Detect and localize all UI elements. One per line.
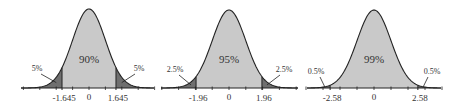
central-area <box>330 10 418 88</box>
upper-critical-value-label: 2.58 <box>412 93 428 103</box>
right-tail-label: 5% <box>134 64 145 73</box>
left-tail-pointer <box>320 77 325 87</box>
right-tail-pointer <box>423 77 428 87</box>
panel-95-percent: 95% 2.5% 2.5% -1.96 0 1.96 <box>161 10 298 103</box>
zero-label: 0 <box>87 92 92 102</box>
panel-99-percent: 99% 0.5% 0.5% -2.58 0 2.58 <box>306 10 442 103</box>
left-tail-label: 2.5% <box>167 65 184 74</box>
left-tail-label: 5% <box>32 64 43 73</box>
right-tail-pointer <box>122 74 135 83</box>
normal-distribution-charts: 90% 5% 5% -1.645 0 1.645 95% 2.5% 2.5% -… <box>0 0 463 109</box>
right-tail-label: 2.5% <box>276 65 293 74</box>
lower-critical-value-label: -1.96 <box>189 93 208 103</box>
left-tail-pointer <box>179 75 191 85</box>
zero-label: 0 <box>372 92 377 102</box>
zero-label: 0 <box>227 92 232 102</box>
central-area-label: 99% <box>364 53 384 65</box>
panel-90-percent: 90% 5% 5% -1.645 0 1.645 <box>21 9 155 103</box>
left-tail-label: 0.5% <box>308 67 325 76</box>
right-tail-pointer <box>267 75 280 85</box>
left-tail-pointer <box>41 74 56 83</box>
central-area-label: 90% <box>79 53 99 65</box>
lower-critical-value-label: -1.645 <box>52 93 76 103</box>
upper-critical-value-label: 1.645 <box>108 93 129 103</box>
lower-critical-value-label: -2.58 <box>323 93 342 103</box>
central-area <box>196 10 262 88</box>
right-tail-label: 0.5% <box>424 67 441 76</box>
central-area-label: 95% <box>219 53 239 65</box>
upper-critical-value-label: 1.96 <box>256 93 272 103</box>
